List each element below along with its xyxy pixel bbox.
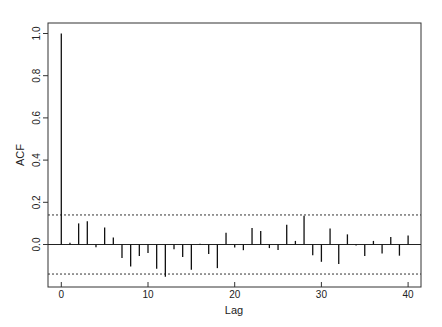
y-tick-label: 0.8: [31, 68, 42, 82]
x-tick-label: 20: [229, 289, 241, 300]
y-tick-label: 0.2: [31, 195, 42, 209]
acf-chart: 0.00.20.40.60.81.0 010203040 Lag ACF: [0, 0, 442, 327]
x-axis: 010203040: [59, 282, 415, 300]
x-tick-label: 0: [59, 289, 65, 300]
y-axis: 0.00.20.40.60.81.0: [31, 26, 48, 251]
acf-bars: [61, 34, 408, 277]
y-tick-label: 0.0: [31, 237, 42, 251]
x-tick-label: 10: [142, 289, 154, 300]
x-tick-label: 40: [403, 289, 415, 300]
x-axis-label: Lag: [225, 304, 243, 316]
y-tick-label: 0.6: [31, 111, 42, 125]
y-tick-label: 1.0: [31, 26, 42, 40]
y-axis-label: ACF: [14, 144, 26, 166]
x-tick-label: 30: [316, 289, 328, 300]
y-tick-label: 0.4: [31, 153, 42, 167]
